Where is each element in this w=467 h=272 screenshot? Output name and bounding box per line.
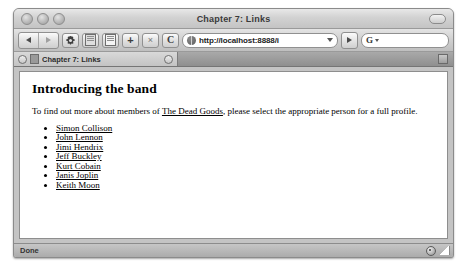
page-paragraph: To find out more about members of The De… (32, 106, 435, 118)
bookmarks-icon (85, 34, 96, 46)
browser-window: Chapter 7: Links + × C (13, 8, 454, 258)
status-bar: Done (14, 243, 453, 257)
web-page: Introducing the band To find out more ab… (19, 71, 448, 239)
tab-bar-empty-area (178, 52, 438, 66)
forward-button[interactable] (38, 33, 58, 48)
paragraph-text-after: , please select the appropriate person f… (223, 106, 418, 116)
bookmarks-button[interactable] (82, 33, 99, 48)
tab-bar: Chapter 7: Links (14, 52, 453, 67)
link-member-3[interactable]: Jeff Buckley (56, 151, 102, 161)
tab-close-icon[interactable] (18, 55, 27, 64)
plus-icon: + (127, 35, 133, 46)
paragraph-text-before: To find out more about members of (32, 106, 162, 116)
arrow-right-icon (347, 37, 352, 43)
close-tab-button[interactable]: × (142, 33, 159, 48)
new-tab-button[interactable]: + (122, 33, 139, 48)
link-member-1[interactable]: John Lennon (56, 132, 103, 142)
gear-icon (66, 36, 75, 45)
list-item: Simon Collison (56, 124, 435, 134)
preferences-button[interactable] (62, 33, 79, 48)
link-member-2[interactable]: Jimi Hendrix (56, 142, 103, 152)
navigation-buttons (18, 32, 59, 49)
link-member-6[interactable]: Keith Moon (56, 180, 100, 190)
google-icon: G (366, 36, 373, 45)
chevron-down-icon[interactable] (375, 39, 379, 42)
minimize-window-button[interactable] (37, 13, 49, 25)
go-button[interactable] (341, 32, 358, 49)
reload-button[interactable]: C (162, 33, 179, 48)
tab-chapter-7-links[interactable]: Chapter 7: Links (14, 52, 178, 66)
reload-icon: C (167, 35, 174, 45)
arrow-left-icon (26, 37, 31, 43)
tab-status-icon (164, 55, 173, 64)
list-item: Jeff Buckley (56, 152, 435, 162)
browser-toolbar: + × C http://localhost:8888/i G (14, 29, 453, 52)
close-icon: × (148, 36, 153, 45)
arrow-right-icon (46, 37, 51, 43)
history-icon (105, 34, 116, 46)
tab-label: Chapter 7: Links (42, 55, 161, 64)
url-bar[interactable]: http://localhost:8888/i (182, 33, 338, 48)
page-title: Introducing the band (32, 81, 435, 97)
back-button[interactable] (19, 33, 38, 48)
link-member-5[interactable]: Janis Joplin (56, 170, 98, 180)
status-text: Done (20, 246, 426, 255)
window-controls (21, 13, 65, 25)
tab-favicon-icon (30, 54, 39, 64)
list-item: Keith Moon (56, 181, 435, 191)
list-item: Kurt Cobain (56, 162, 435, 172)
band-member-list: Simon Collison John Lennon Jimi Hendrix … (32, 124, 435, 191)
tab-bar-close-button[interactable] (438, 54, 448, 64)
link-the-dead-goods[interactable]: The Dead Goods (162, 106, 223, 116)
history-button[interactable] (102, 33, 119, 48)
resize-grip[interactable] (440, 246, 450, 255)
chevron-down-icon[interactable] (327, 38, 333, 42)
search-input[interactable]: G (361, 33, 449, 48)
toolbar-toggle-button[interactable] (429, 14, 446, 24)
link-member-0[interactable]: Simon Collison (56, 123, 112, 133)
link-member-4[interactable]: Kurt Cobain (56, 161, 101, 171)
close-window-button[interactable] (21, 13, 33, 25)
list-item: John Lennon (56, 133, 435, 143)
list-item: Jimi Hendrix (56, 143, 435, 153)
lock-icon (426, 246, 436, 256)
content-area: Introducing the band To find out more ab… (14, 67, 453, 243)
globe-icon (187, 36, 196, 45)
zoom-window-button[interactable] (53, 13, 65, 25)
window-title: Chapter 7: Links (14, 14, 453, 24)
title-bar[interactable]: Chapter 7: Links (14, 9, 453, 29)
url-text: http://localhost:8888/i (199, 36, 325, 45)
list-item: Janis Joplin (56, 171, 435, 181)
